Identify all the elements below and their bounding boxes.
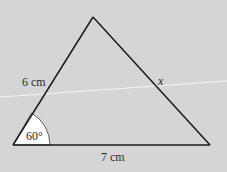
label-base: 7 cm: [101, 150, 125, 164]
side-right: [93, 17, 210, 145]
label-left-side: 6 cm: [22, 75, 46, 89]
triangle-diagram: 6 cm 7 cm x 60°: [0, 0, 227, 172]
label-angle: 60°: [26, 129, 43, 143]
diagram-svg: 6 cm 7 cm x 60°: [0, 0, 227, 172]
label-right-side: x: [157, 74, 164, 88]
